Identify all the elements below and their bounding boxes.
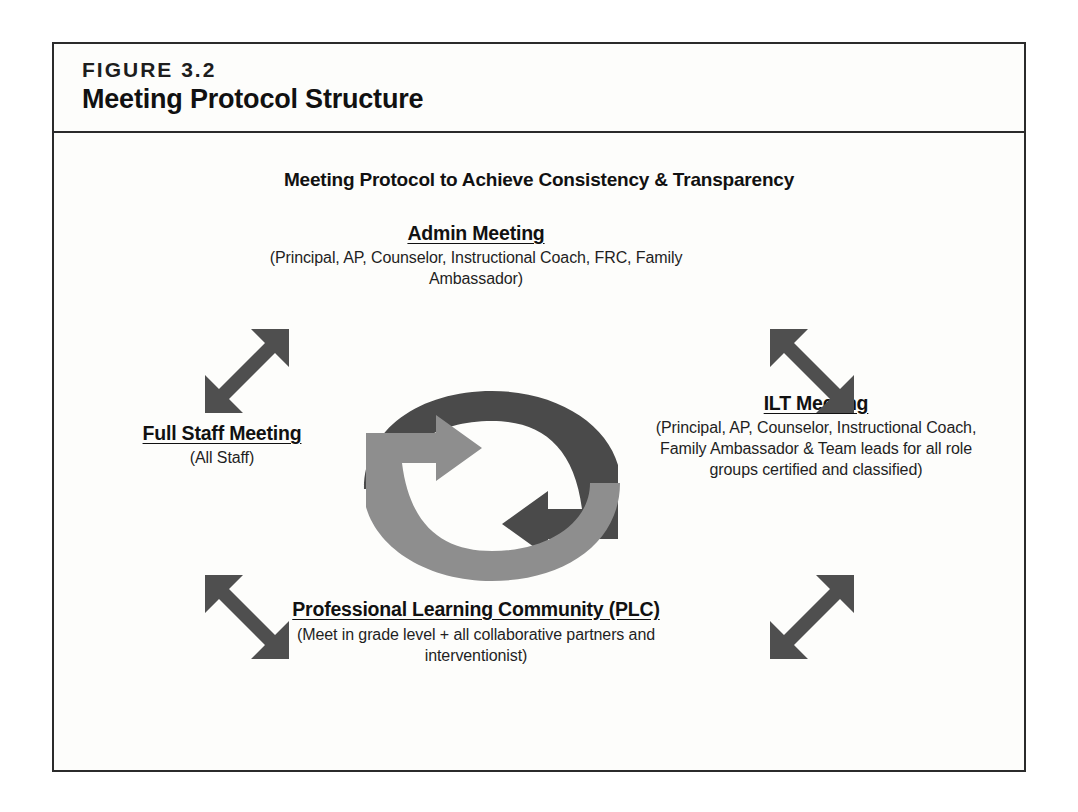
figure-body: Meeting Protocol to Achieve Consistency … xyxy=(54,133,1024,770)
node-plc-detail: (Meet in grade level + all collaborative… xyxy=(268,625,684,667)
diagram-subtitle: Meeting Protocol to Achieve Consistency … xyxy=(54,169,1024,191)
circular-cycle-arrows-icon xyxy=(342,371,642,605)
double-headed-diagonal-arrow-icon xyxy=(758,317,866,429)
figure-frame: FIGURE 3.2 Meeting Protocol Structure Me… xyxy=(52,42,1026,772)
node-admin-meeting-title: Admin Meeting xyxy=(268,221,684,245)
figure-label: FIGURE 3.2 xyxy=(82,58,1024,81)
figure-title: Meeting Protocol Structure xyxy=(82,84,1024,115)
node-plc-title: Professional Learning Community (PLC) xyxy=(268,597,684,622)
node-plc: Professional Learning Community (PLC) (M… xyxy=(268,597,684,667)
double-headed-diagonal-arrow-icon xyxy=(758,563,866,675)
figure-header: FIGURE 3.2 Meeting Protocol Structure xyxy=(54,44,1024,133)
node-admin-meeting-detail: (Principal, AP, Counselor, Instructional… xyxy=(268,248,684,290)
double-headed-diagonal-arrow-icon xyxy=(193,563,301,675)
double-headed-diagonal-arrow-icon xyxy=(193,317,301,429)
node-admin-meeting: Admin Meeting (Principal, AP, Counselor,… xyxy=(268,221,684,290)
node-full-staff-meeting-detail: (All Staff) xyxy=(64,448,380,469)
